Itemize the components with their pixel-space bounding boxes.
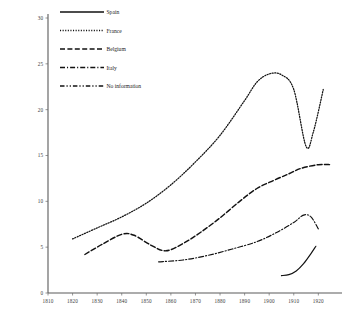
series-line-france [73, 73, 324, 239]
x-tick-label: 1840 [116, 298, 127, 304]
y-tick-label: 25 [38, 61, 44, 67]
x-tick-label: 1810 [42, 298, 53, 304]
y-tick-label: 30 [38, 15, 44, 21]
y-tick-label: 20 [38, 107, 44, 113]
line-chart: 0510152025301810182018301840185018601870… [0, 0, 345, 322]
y-tick-label: 10 [38, 198, 44, 204]
legend-label: No information [107, 83, 142, 89]
legend-label: Italy [107, 65, 117, 71]
x-tick-label: 1890 [239, 298, 250, 304]
y-tick-label: 15 [38, 152, 44, 158]
legend-item-italy: Italy [60, 65, 117, 71]
legend-item-no-information: No information [60, 83, 141, 89]
x-tick-label: 1850 [141, 298, 152, 304]
chart-container: 0510152025301810182018301840185018601870… [0, 0, 345, 322]
series-line-spain [281, 246, 315, 275]
x-tick-label: 1900 [264, 298, 275, 304]
y-tick-label: 0 [40, 290, 43, 296]
x-tick-label: 1830 [92, 298, 103, 304]
x-tick-label: 1820 [67, 298, 78, 304]
x-tick-label: 1880 [214, 298, 225, 304]
series-line-italy [159, 215, 319, 262]
legend-label: Spain [107, 9, 120, 15]
y-tick-label: 5 [40, 244, 43, 250]
x-tick-label: 1870 [190, 298, 201, 304]
x-tick-label: 1860 [165, 298, 176, 304]
legend-label: Belgium [107, 46, 127, 52]
series-line-belgium [85, 164, 331, 254]
legend-item-france: France [60, 28, 122, 34]
legend-item-spain: Spain [60, 9, 119, 15]
x-tick-label: 1910 [288, 298, 299, 304]
x-tick-label: 1920 [313, 298, 324, 304]
legend-label: France [107, 28, 123, 34]
legend-item-belgium: Belgium [60, 46, 126, 52]
